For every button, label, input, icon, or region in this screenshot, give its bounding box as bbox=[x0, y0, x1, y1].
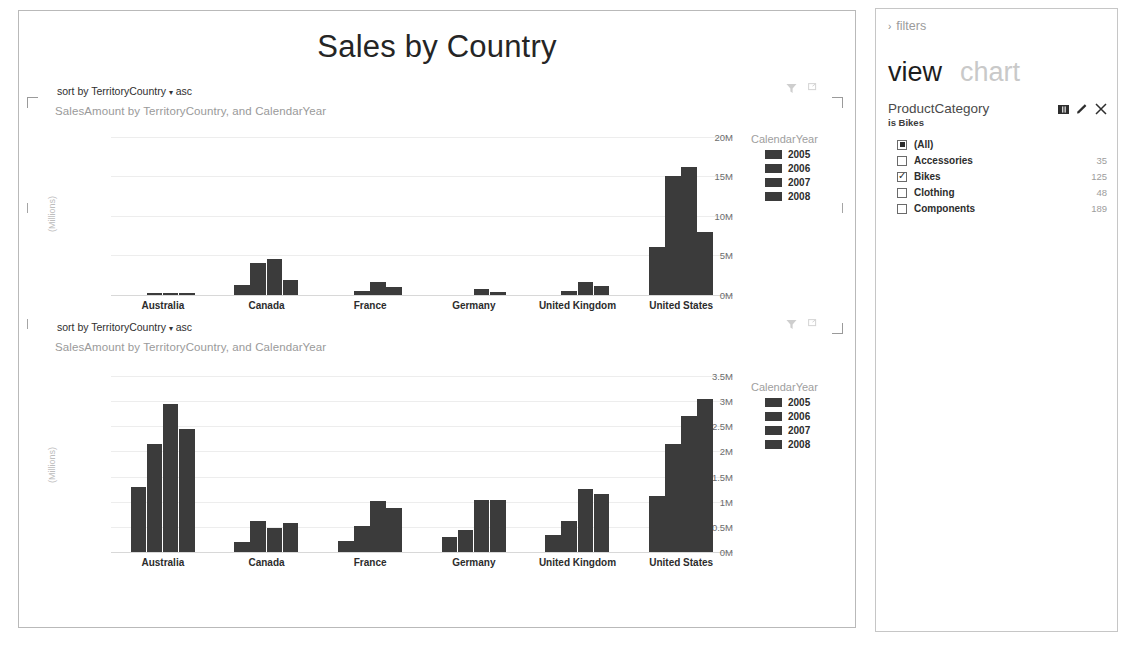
bar[interactable] bbox=[594, 494, 610, 552]
bar[interactable] bbox=[474, 289, 490, 295]
x-axis-tick-label: Australia bbox=[111, 300, 215, 311]
legend-item[interactable]: 2008 bbox=[751, 191, 818, 202]
resize-handle-left-1[interactable] bbox=[27, 203, 28, 213]
bar[interactable] bbox=[545, 535, 561, 552]
filter-funnel-icon[interactable] bbox=[786, 319, 797, 330]
bar[interactable] bbox=[594, 286, 610, 295]
legend-item[interactable]: 2005 bbox=[751, 149, 818, 160]
resize-handle-bottom-right-2[interactable] bbox=[832, 323, 843, 334]
legend-swatch bbox=[765, 150, 782, 159]
resize-handle-top-right-1[interactable] bbox=[832, 97, 843, 108]
resize-handle-left-2[interactable] bbox=[27, 319, 28, 329]
chevron-down-icon[interactable]: ▾ bbox=[169, 88, 173, 97]
legend-label: 2007 bbox=[788, 425, 810, 436]
bar[interactable] bbox=[490, 292, 506, 295]
bar[interactable] bbox=[681, 167, 697, 295]
bar[interactable] bbox=[163, 293, 179, 295]
tab-view[interactable]: view bbox=[888, 57, 942, 88]
bar[interactable] bbox=[234, 542, 250, 552]
x-axis-tick-label: United States bbox=[629, 300, 733, 311]
bar[interactable] bbox=[561, 521, 577, 552]
filter-list-item[interactable]: Accessories35 bbox=[888, 153, 1107, 168]
filter-list-item[interactable]: Bikes125 bbox=[888, 169, 1107, 184]
gridline bbox=[111, 376, 733, 377]
bar[interactable] bbox=[697, 232, 713, 295]
pop-out-icon[interactable] bbox=[808, 319, 819, 330]
bar[interactable] bbox=[386, 508, 402, 552]
filter-list-item[interactable]: (All) bbox=[888, 137, 1107, 152]
sort-control-1[interactable]: sort by TerritoryCountry ▾ asc bbox=[57, 85, 192, 97]
gridline bbox=[111, 451, 733, 452]
sort-direction[interactable]: asc bbox=[176, 321, 192, 333]
bar[interactable] bbox=[163, 404, 179, 552]
bar[interactable] bbox=[234, 285, 250, 295]
bar[interactable] bbox=[490, 500, 506, 552]
bar[interactable] bbox=[370, 501, 386, 552]
checkbox-icon[interactable] bbox=[897, 140, 907, 150]
bar[interactable] bbox=[354, 526, 370, 552]
pencil-edit-icon[interactable] bbox=[1076, 103, 1088, 115]
bar[interactable] bbox=[147, 444, 163, 552]
bar[interactable] bbox=[179, 293, 195, 295]
bar[interactable] bbox=[649, 247, 665, 295]
checkbox-icon[interactable] bbox=[897, 172, 907, 182]
bar[interactable] bbox=[458, 530, 474, 552]
sort-control-2[interactable]: sort by TerritoryCountry ▾ asc bbox=[57, 321, 192, 333]
filter-list-item[interactable]: Components189 bbox=[888, 201, 1107, 216]
bar[interactable] bbox=[681, 416, 697, 552]
bar[interactable] bbox=[578, 282, 594, 295]
bar[interactable] bbox=[665, 176, 681, 295]
bar[interactable] bbox=[442, 537, 458, 552]
bar[interactable] bbox=[283, 280, 299, 295]
bar[interactable] bbox=[338, 541, 354, 552]
chevron-down-icon[interactable]: ▾ bbox=[169, 324, 173, 333]
resize-handle-top-left-1[interactable] bbox=[27, 97, 38, 108]
bar[interactable] bbox=[179, 429, 195, 552]
resize-handle-right-1[interactable] bbox=[842, 203, 843, 213]
x-axis-tick-label: France bbox=[318, 300, 422, 311]
sort-field[interactable]: TerritoryCountry bbox=[91, 85, 166, 97]
legend-item[interactable]: 2005 bbox=[751, 397, 818, 408]
visual-container-1[interactable]: sort by TerritoryCountry ▾ asc bbox=[33, 83, 841, 323]
checkbox-icon[interactable] bbox=[897, 156, 907, 166]
breadcrumb[interactable]: › filters bbox=[888, 19, 926, 33]
bar[interactable] bbox=[649, 496, 665, 552]
legend-item[interactable]: 2006 bbox=[751, 411, 818, 422]
bar[interactable] bbox=[561, 291, 577, 295]
bar[interactable] bbox=[665, 444, 681, 552]
checkbox-icon[interactable] bbox=[897, 204, 907, 214]
bar[interactable] bbox=[386, 287, 402, 295]
bar[interactable] bbox=[474, 500, 490, 552]
sort-field[interactable]: TerritoryCountry bbox=[91, 321, 166, 333]
bar[interactable] bbox=[697, 399, 713, 552]
filter-list-item[interactable]: Clothing48 bbox=[888, 185, 1107, 200]
bar[interactable] bbox=[147, 293, 163, 295]
legend-label: 2006 bbox=[788, 411, 810, 422]
sort-prefix: sort by bbox=[57, 85, 89, 97]
chevron-right-icon[interactable]: › bbox=[888, 21, 891, 32]
filter-condition: is Bikes bbox=[888, 117, 989, 128]
bar[interactable] bbox=[283, 523, 299, 552]
x-axis-tick-label: Australia bbox=[111, 557, 215, 568]
tab-chart[interactable]: chart bbox=[960, 57, 1020, 88]
pop-out-icon[interactable] bbox=[808, 83, 819, 94]
legend-item[interactable]: 2007 bbox=[751, 425, 818, 436]
bar[interactable] bbox=[267, 528, 283, 552]
bar[interactable] bbox=[267, 259, 283, 295]
sort-direction[interactable]: asc bbox=[176, 85, 192, 97]
bar[interactable] bbox=[131, 487, 147, 552]
checkbox-icon[interactable] bbox=[897, 188, 907, 198]
legend-item[interactable]: 2007 bbox=[751, 177, 818, 188]
filter-card-header: ProductCategory is Bikes bbox=[888, 101, 1107, 128]
bar[interactable] bbox=[354, 291, 370, 295]
columns-icon[interactable] bbox=[1058, 104, 1069, 115]
bar[interactable] bbox=[370, 282, 386, 295]
filter-funnel-icon[interactable] bbox=[786, 83, 797, 94]
visual-container-2[interactable]: sort by TerritoryCountry ▾ asc bbox=[33, 319, 841, 611]
close-x-icon[interactable] bbox=[1095, 103, 1107, 115]
legend-item[interactable]: 2006 bbox=[751, 163, 818, 174]
bar[interactable] bbox=[250, 521, 266, 552]
bar[interactable] bbox=[578, 489, 594, 552]
legend-item[interactable]: 2008 bbox=[751, 439, 818, 450]
bar[interactable] bbox=[250, 263, 266, 295]
